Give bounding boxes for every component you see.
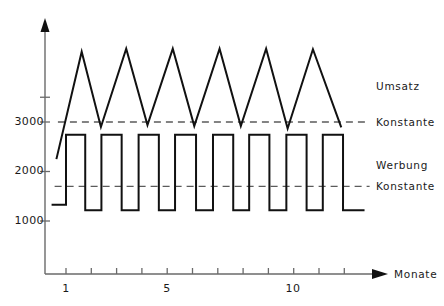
chart-container: 3000 2000 1000 1 5 10 Monate Umsatz Kons… (0, 0, 444, 306)
series-path-werbung (52, 135, 365, 210)
series-label-konstante-lower: Konstante (376, 181, 435, 192)
y-axis-arrow-icon (41, 18, 50, 32)
series-label-werbung: Werbung (376, 160, 428, 171)
chart-canvas (0, 0, 444, 306)
x-axis-arrow-icon (372, 269, 388, 279)
y-tick-label-2000: 2000 (0, 165, 44, 176)
series-paths-group (52, 49, 365, 211)
series-label-konstante-upper: Konstante (376, 117, 435, 128)
x-tick-label-1: 1 (54, 283, 78, 294)
x-axis-title: Monate (394, 269, 437, 280)
series-label-umsatz: Umsatz (376, 81, 420, 92)
x-tick-label-5: 5 (155, 283, 179, 294)
x-tick-marks (66, 268, 344, 274)
y-tick-label-3000: 3000 (0, 116, 44, 127)
series-path-umsatz (56, 49, 341, 159)
x-tick-label-10: 10 (281, 283, 305, 294)
y-tick-label-1000: 1000 (0, 215, 44, 226)
axis-group (41, 18, 389, 279)
